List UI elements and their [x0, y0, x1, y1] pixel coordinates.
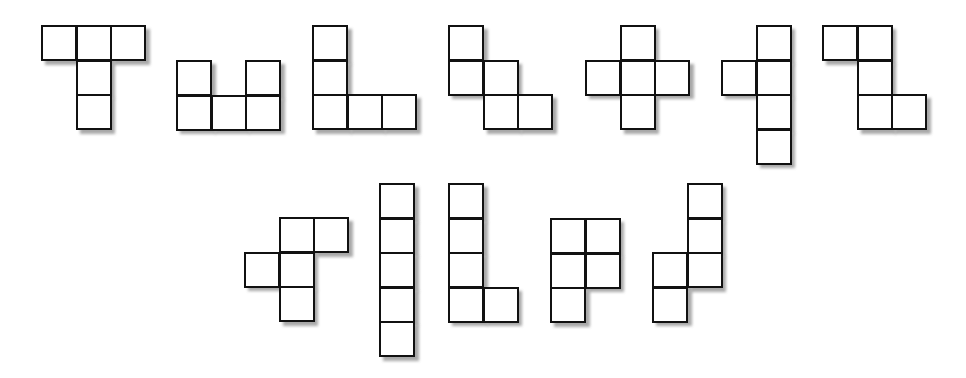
pentomino-cell [654, 60, 690, 96]
pentomino-cell [585, 253, 621, 289]
pentomino-cell [550, 218, 586, 254]
pentomino-cell [756, 94, 792, 130]
pentomino-cell [312, 25, 348, 61]
pentomino-cell [448, 183, 484, 219]
pentomino-cell [550, 253, 586, 289]
pentomino-cell [448, 25, 484, 61]
pentomino-cell [585, 218, 621, 254]
pentomino-cell [245, 95, 281, 131]
pentomino-cell [756, 25, 792, 61]
pentomino-cell [313, 217, 349, 253]
pentomino-cell [379, 183, 415, 219]
pentomino-cell [652, 252, 688, 288]
pentomino-cell [312, 60, 348, 96]
pentomino-cell [483, 60, 519, 96]
pentomino-diagram [0, 0, 966, 378]
pentomino-cell [585, 60, 621, 96]
pentomino-cell [379, 321, 415, 357]
pentomino-cell [620, 60, 656, 96]
pentomino-cell [448, 60, 484, 96]
pentomino-cell [379, 218, 415, 254]
pentomino-cell [279, 217, 315, 253]
pentomino-cell [550, 287, 586, 323]
pentomino-cell [76, 60, 112, 96]
pentomino-cell [381, 94, 417, 130]
pentomino-cell [756, 60, 792, 96]
pentomino-cell [448, 218, 484, 254]
pentomino-cell [312, 94, 348, 130]
pentomino-cell [379, 252, 415, 288]
pentomino-cell [211, 95, 247, 131]
pentomino-cell [891, 94, 927, 130]
pentomino-cell [687, 252, 723, 288]
pentomino-cell [652, 287, 688, 323]
pentomino-cell [857, 25, 893, 61]
pentomino-cell [279, 252, 315, 288]
pentomino-cell [110, 25, 146, 61]
pentomino-cell [822, 25, 858, 61]
pentomino-cell [379, 287, 415, 323]
pentomino-cell [176, 95, 212, 131]
pentomino-cell [517, 94, 553, 130]
pentomino-cell [756, 129, 792, 165]
pentomino-cell [279, 286, 315, 322]
pentomino-cell [620, 25, 656, 61]
pentomino-cell [347, 94, 383, 130]
pentomino-cell [448, 252, 484, 288]
pentomino-cell [687, 183, 723, 219]
pentomino-cell [244, 252, 280, 288]
pentomino-cell [41, 25, 77, 61]
pentomino-cell [857, 60, 893, 96]
pentomino-cell [721, 60, 757, 96]
pentomino-cell [176, 60, 212, 96]
pentomino-cell [76, 94, 112, 130]
pentomino-cell [483, 287, 519, 323]
pentomino-cell [483, 94, 519, 130]
pentomino-cell [76, 25, 112, 61]
pentomino-cell [857, 94, 893, 130]
pentomino-cell [245, 60, 281, 96]
pentomino-cell [687, 218, 723, 254]
pentomino-cell [620, 94, 656, 130]
pentomino-cell [448, 287, 484, 323]
